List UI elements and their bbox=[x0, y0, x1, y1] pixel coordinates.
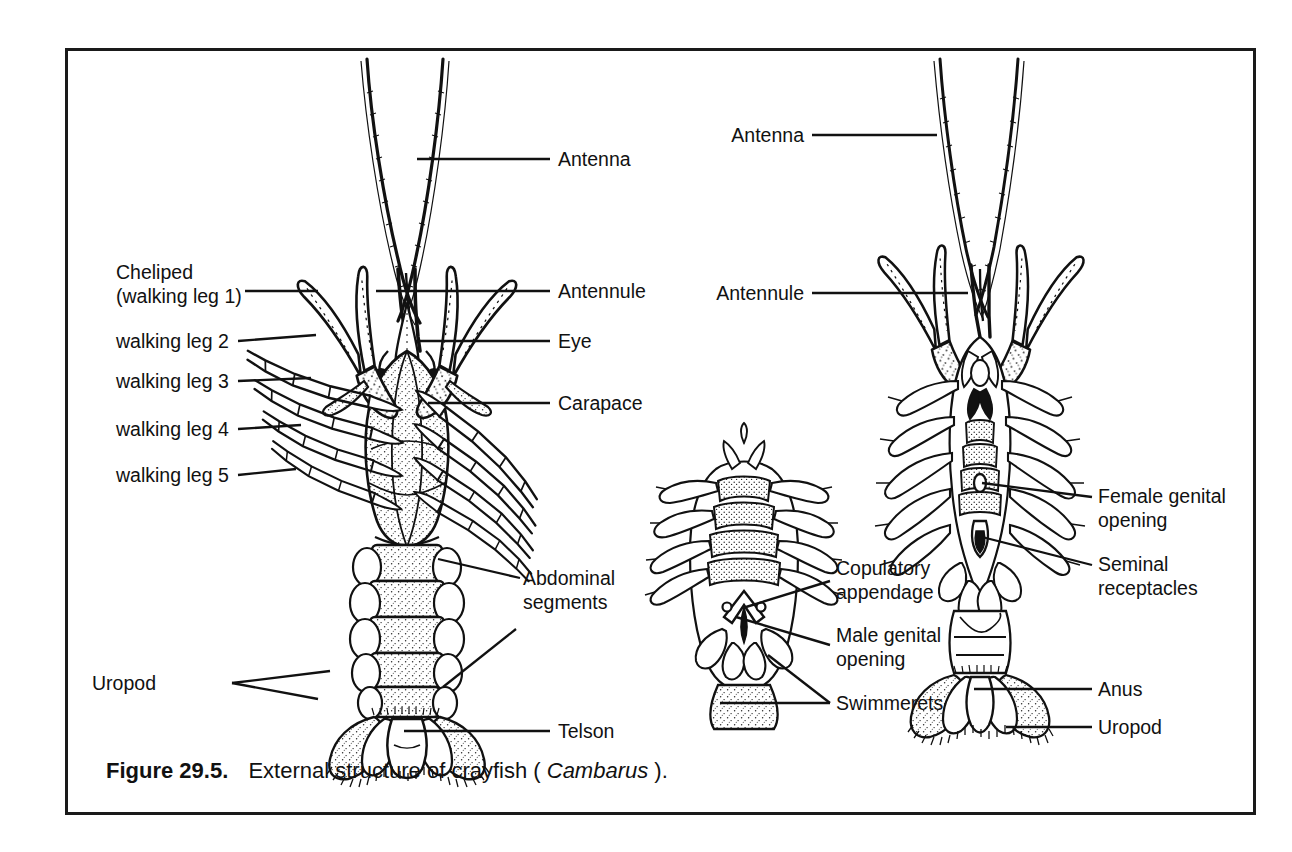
telson-female bbox=[967, 677, 994, 733]
label-antenna-female: Antenna bbox=[731, 124, 804, 146]
label-uropod-dorsal: Uropod bbox=[92, 672, 156, 694]
figure-caption-tail: ). bbox=[654, 758, 667, 783]
abdomen-female bbox=[950, 611, 1011, 673]
label-walking-leg-5: walking leg 5 bbox=[115, 464, 229, 486]
telson-male bbox=[711, 685, 778, 729]
label-swimmerets: Swimmerets bbox=[836, 692, 944, 714]
figure-number: Figure 29.5. bbox=[106, 758, 228, 783]
figure-frame-border: Cheliped (walking leg 1) walking leg 2 w… bbox=[65, 48, 1256, 815]
label-cheliped-line1: Cheliped bbox=[116, 261, 193, 283]
label-uropod-female: Uropod bbox=[1098, 716, 1162, 738]
male-genital-pore-left bbox=[723, 603, 732, 612]
label-copulatory-appendage-line1: Copulatory bbox=[836, 557, 931, 579]
crayfish-illustration-plate: Cheliped (walking leg 1) walking leg 2 w… bbox=[68, 51, 1253, 812]
label-seminal-receptacles-line1: Seminal bbox=[1098, 553, 1168, 575]
figure-caption: Figure 29.5. External structure of crayf… bbox=[106, 758, 668, 783]
label-carapace: Carapace bbox=[558, 392, 643, 414]
label-walking-leg-3: walking leg 3 bbox=[115, 370, 229, 392]
label-male-genital-opening-line2: opening bbox=[836, 648, 905, 670]
label-male-genital-opening-line1: Male genital bbox=[836, 624, 941, 646]
label-cheliped-line2: (walking leg 1) bbox=[116, 285, 242, 307]
label-antennule-dorsal: Antennule bbox=[558, 280, 646, 302]
label-eye: Eye bbox=[558, 330, 592, 352]
label-female-genital-opening-line1: Female genital bbox=[1098, 485, 1226, 507]
label-seminal-receptacles-line2: receptacles bbox=[1098, 577, 1198, 599]
label-telson: Telson bbox=[558, 720, 614, 742]
label-antenna-dorsal: Antenna bbox=[558, 148, 631, 170]
abdominal-segments-dorsal bbox=[350, 545, 464, 719]
figure-plate: Cheliped (walking leg 1) walking leg 2 w… bbox=[68, 51, 1253, 812]
figure-page: Cheliped (walking leg 1) walking leg 2 w… bbox=[0, 0, 1292, 852]
label-anus: Anus bbox=[1098, 678, 1143, 700]
label-abdominal-segments-line1: Abdominal bbox=[523, 567, 615, 589]
label-female-genital-opening-line2: opening bbox=[1098, 509, 1167, 531]
label-antennule-female: Antennule bbox=[716, 282, 804, 304]
label-walking-leg-2: walking leg 2 bbox=[115, 330, 229, 352]
label-copulatory-appendage-line2: appendage bbox=[836, 581, 934, 603]
label-abdominal-segments-line2: segments bbox=[523, 591, 608, 613]
figure-caption-main: External structure of crayfish ( bbox=[248, 758, 541, 783]
figure-caption-species: Cambarus bbox=[547, 758, 648, 783]
label-walking-leg-4: walking leg 4 bbox=[115, 418, 229, 440]
